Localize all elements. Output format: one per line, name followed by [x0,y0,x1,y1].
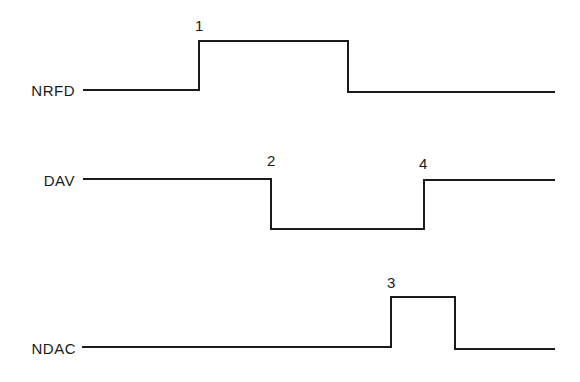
signal-label-ndac: NDAC [31,340,76,357]
timing-diagram: NRFD 1 DAV 2 4 NDAC 3 [0,0,580,382]
signal-label-dav: DAV [44,172,75,189]
signal-nrfd: NRFD 1 [31,17,555,99]
event-label-3: 3 [387,274,395,291]
event-label-4: 4 [419,155,427,172]
waveform-ndac [82,297,555,349]
waveform-dav [83,179,555,229]
signal-label-nrfd: NRFD [31,82,75,99]
event-label-1: 1 [195,17,203,34]
timing-diagram-svg: NRFD 1 DAV 2 4 NDAC 3 [0,0,580,382]
signal-dav: DAV 2 4 [44,152,555,229]
waveform-nrfd [83,41,555,92]
signal-ndac: NDAC 3 [31,274,555,357]
event-label-2: 2 [267,152,275,169]
